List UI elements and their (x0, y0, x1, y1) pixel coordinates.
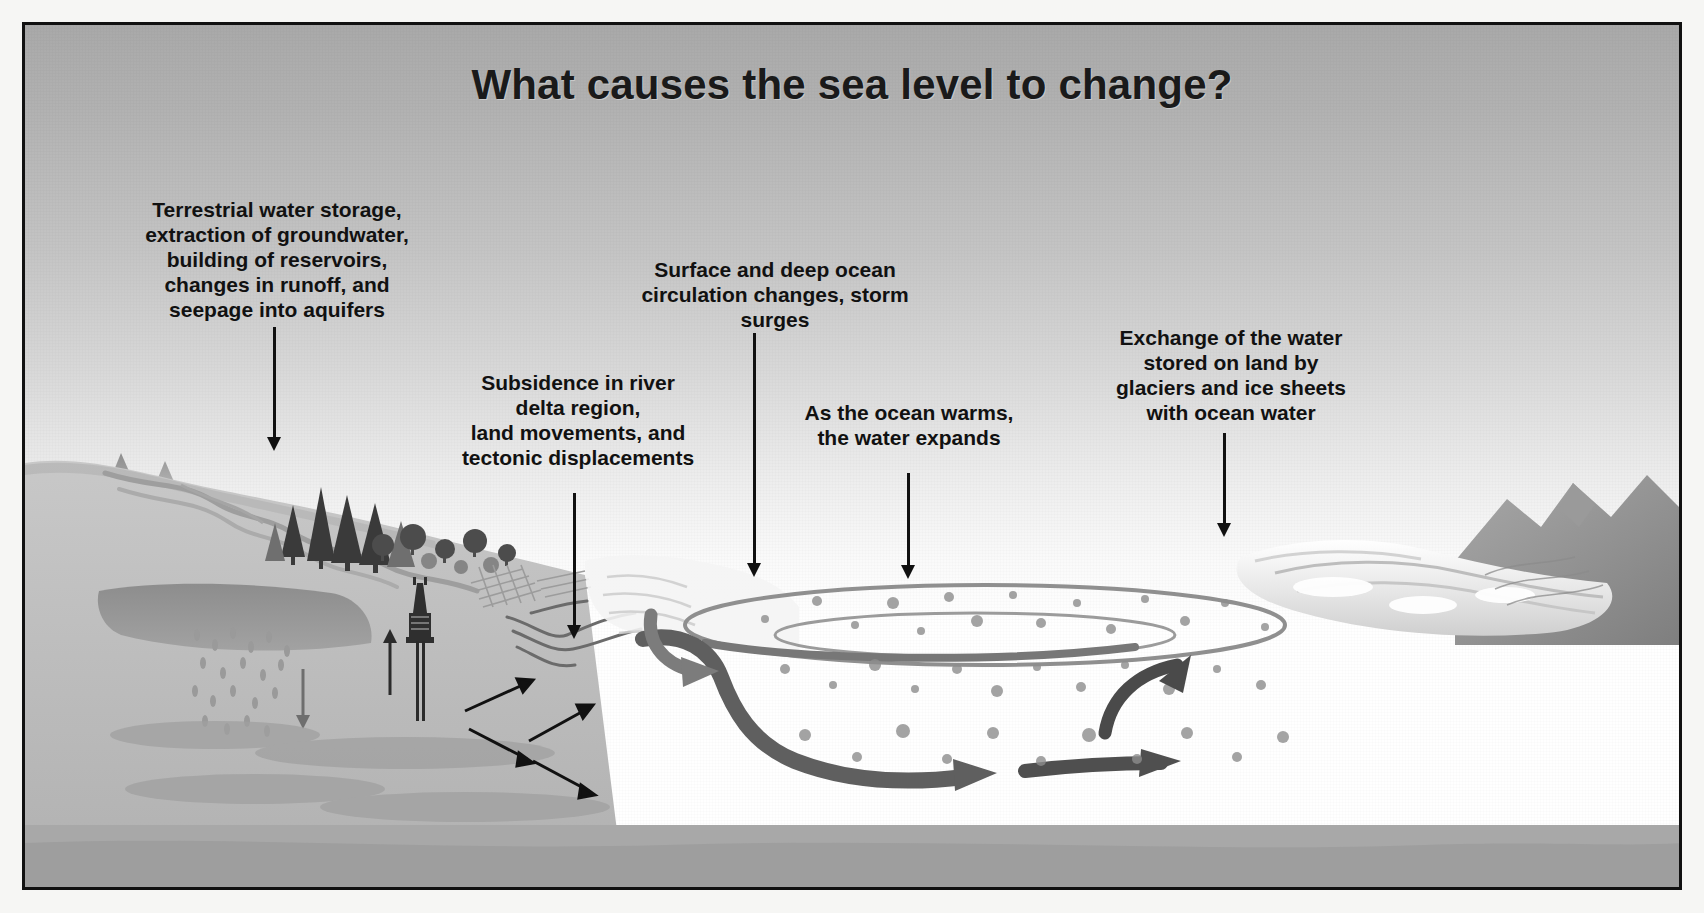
arrow-thermal-expansion (907, 473, 910, 567)
label-ocean-circulation: Surface and deep ocean circulation chang… (605, 257, 945, 332)
arrow-subsidence-delta (573, 493, 576, 627)
seabed (25, 825, 1682, 890)
infographic-page: What causes the sea level to change? Ter… (0, 0, 1704, 913)
arrowhead-icon (1217, 523, 1231, 537)
return-flow-arrow (1085, 637, 1215, 747)
figure-frame: What causes the sea level to change? Ter… (22, 22, 1682, 890)
groundwater-extraction-arrow (375, 625, 405, 697)
arrow-glaciers-ice-sheets (1223, 433, 1226, 525)
ice-sheet (1155, 465, 1682, 695)
arrow-ocean-circulation (753, 333, 756, 565)
arrowhead-icon (567, 625, 581, 639)
cross-section-scene (25, 25, 1682, 890)
label-thermal-expansion: As the ocean warms, the water expands (793, 400, 1025, 450)
arrowhead-icon (267, 437, 281, 451)
label-glaciers-ice-sheets: Exchange of the water stored on land by … (1101, 325, 1361, 425)
label-subsidence-delta: Subsidence in river delta region, land m… (455, 370, 701, 470)
arrow-terrestrial-water-storage (273, 327, 276, 439)
fault-arrows (455, 665, 635, 805)
arrowhead-icon (901, 565, 915, 579)
arrowhead-icon (747, 563, 761, 577)
page-title: What causes the sea level to change? (25, 61, 1679, 109)
label-terrestrial-water-storage: Terrestrial water storage, extraction of… (127, 197, 427, 322)
